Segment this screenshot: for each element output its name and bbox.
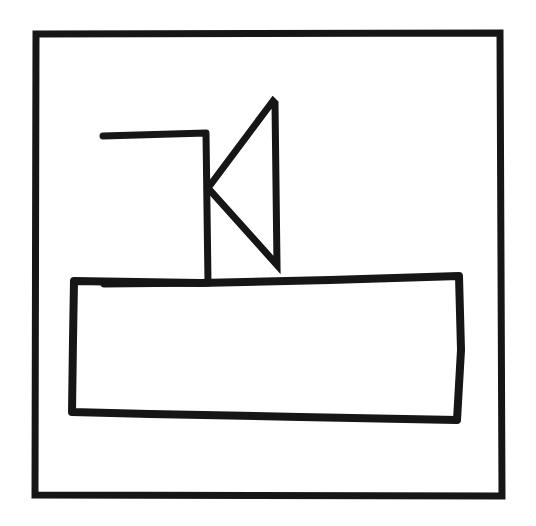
drawing-canvas xyxy=(0,0,536,526)
canvas-background xyxy=(0,0,536,526)
line-drawing xyxy=(0,0,536,526)
